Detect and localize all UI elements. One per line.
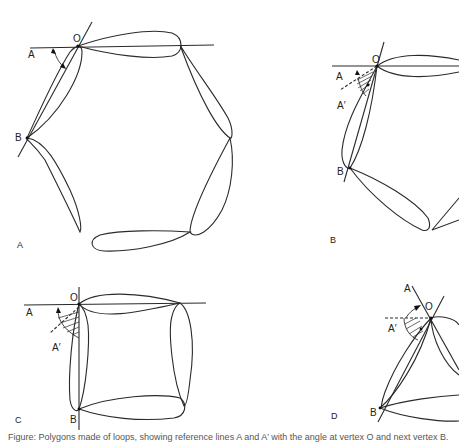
panel-d-arrowhead (414, 305, 421, 311)
panel-d-vertex-o (429, 316, 432, 319)
panel-d-inner-dot (420, 328, 423, 331)
panel-a-caption-label: A (17, 241, 23, 250)
panel-b-label-a-prime: A′ (337, 101, 346, 111)
panel-b-figure (332, 42, 459, 231)
panel-c-label-b: B (70, 415, 77, 425)
panel-b-arrowhead (355, 70, 360, 75)
panel-d-label-a-prime: A′ (388, 324, 397, 334)
panel-a-vertex-b (26, 137, 29, 140)
panel-a-loop-upper-left (27, 46, 82, 138)
panel-d-label-a: A (404, 284, 411, 294)
panel-a-loop-lower-left (27, 138, 81, 232)
panel-c-arrowhead (56, 307, 61, 313)
panel-a-label-b: B (15, 133, 22, 143)
panel-b-vertex-b (349, 167, 352, 170)
panel-c-loop-bottom (79, 396, 185, 420)
panel-b-inner-dot (367, 84, 370, 87)
panel-b-label-b: B (337, 167, 344, 177)
panel-c-hatched-angle (58, 310, 79, 338)
panel-c-label-o: O (70, 293, 78, 303)
panel-b-hatched-angle (357, 72, 373, 96)
panel-a-vertex-o (76, 44, 79, 47)
panel-a-arrowhead-1 (51, 48, 56, 54)
panel-d-figure (378, 286, 459, 422)
figure-caption: Figure: Polygons made of loops, showing … (8, 433, 453, 442)
panel-c-vertex-b (78, 408, 81, 411)
panel-a-loop-lower-right (190, 138, 232, 235)
panel-b-caption-label: B (330, 236, 336, 245)
panel-a-label-a: A (28, 50, 35, 60)
panel-a-loop-top (78, 31, 181, 57)
panel-b-loop-left (342, 66, 377, 168)
panel-c-caption-label: C (15, 416, 22, 425)
panel-d-loop-bottom (380, 395, 459, 421)
panel-c-label-a: A (26, 308, 33, 318)
panel-a-loop-upper-right (180, 45, 232, 138)
panel-d-label-b: B (370, 408, 377, 418)
panel-b-label-o: O (372, 55, 380, 65)
panel-a-label-o: O (73, 34, 81, 44)
panel-d-caption-label: D (331, 412, 338, 421)
panel-b-label-a: A (336, 72, 343, 82)
panel-d-ob-line (378, 296, 444, 422)
panel-a-loop-bottom (92, 231, 190, 251)
panel-d-label-o: O (425, 302, 433, 312)
panel-a-reference-line (30, 45, 214, 48)
panel-c-figure (24, 287, 206, 430)
panel-c-label-a-prime: A′ (52, 343, 61, 353)
panel-b-loop-bottom (350, 168, 430, 231)
panel-d-vertex-b (379, 407, 382, 410)
panel-c-loop-right (171, 303, 193, 406)
panel-a-figure (18, 22, 232, 251)
diagram-canvas (0, 0, 459, 444)
